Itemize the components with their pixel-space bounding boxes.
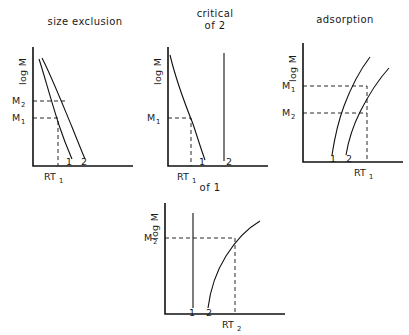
figure-canvas: size exclusion log M 1 2 M 2 M 1 RT bbox=[0, 0, 409, 335]
guide-m2-rt2-of-1 bbox=[165, 238, 235, 314]
panel-of-1: of 1 log M 1 2 M 2 RT 2 bbox=[130, 180, 300, 335]
curve-label-1-critical-of-2: 1 bbox=[199, 156, 205, 167]
curve-2-of-1 bbox=[208, 221, 260, 308]
ytick-m2-sub-of-1: 2 bbox=[153, 238, 157, 246]
ytick-m1-adsorption: M bbox=[282, 80, 290, 91]
guide-m1-rt1-adsorption bbox=[303, 86, 367, 162]
curve-label-1-of-1: 1 bbox=[189, 307, 195, 318]
axes-adsorption bbox=[303, 43, 403, 162]
ytick-m1-size-exclusion: M bbox=[12, 112, 20, 123]
ytick-m2-adsorption: M bbox=[282, 107, 290, 118]
axes-critical-of-2 bbox=[168, 47, 268, 166]
curve-label-2-of-1: 2 bbox=[206, 307, 212, 318]
xtick-rt1-adsorption: RT bbox=[354, 167, 366, 178]
ytick-m1-sub-adsorption: 1 bbox=[291, 86, 295, 94]
plot-size-exclusion: log M 1 2 M 2 M 1 RT 1 bbox=[0, 0, 140, 195]
y-axis-label-adsorption: log M bbox=[287, 55, 298, 82]
ytick-m2-sub-adsorption: 2 bbox=[291, 113, 295, 121]
panel-title-of-1: of 1 bbox=[170, 182, 250, 194]
xtick-rt1-size-exclusion: RT bbox=[44, 171, 56, 182]
curve-1-adsorption bbox=[332, 57, 370, 155]
xtick-rt2-sub-of-1: 2 bbox=[237, 325, 241, 333]
curve-label-1-adsorption: 1 bbox=[330, 153, 336, 164]
ytick-m2-sub-size-exclusion: 2 bbox=[21, 101, 25, 109]
panel-title-size-exclusion: size exclusion bbox=[30, 16, 140, 28]
curve-label-2-adsorption: 2 bbox=[346, 153, 352, 164]
xtick-rt1-sub-adsorption: 1 bbox=[369, 173, 373, 181]
panel-critical-of-2: critical of 2 log M 1 2 M 1 RT 1 bbox=[135, 0, 275, 195]
xtick-rt1-sub-size-exclusion: 1 bbox=[59, 177, 63, 185]
curve-label-2-size-exclusion: 2 bbox=[81, 156, 87, 167]
guide-m1-rt1-size-exclusion bbox=[33, 118, 58, 166]
plot-of-1: log M 1 2 M 2 RT 2 bbox=[130, 180, 300, 335]
ytick-m1-sub-critical-of-2: 1 bbox=[156, 118, 160, 126]
curve-label-1-size-exclusion: 1 bbox=[66, 156, 72, 167]
ytick-m1-sub-size-exclusion: 1 bbox=[21, 118, 25, 126]
ytick-m2-of-1: M bbox=[144, 232, 152, 243]
curve-label-2-critical-of-2: 2 bbox=[226, 156, 232, 167]
y-axis-label-critical-of-2: log M bbox=[152, 58, 163, 85]
y-axis-label-size-exclusion: log M bbox=[17, 58, 28, 85]
panel-title-adsorption: adsorption bbox=[290, 14, 400, 26]
curve-2-size-exclusion bbox=[42, 58, 85, 159]
plot-adsorption: log M 1 2 M 1 M 2 RT 1 bbox=[270, 0, 409, 195]
ytick-m1-critical-of-2: M bbox=[147, 112, 155, 123]
curve-2-adsorption bbox=[346, 68, 389, 155]
ytick-m2-size-exclusion: M bbox=[12, 95, 20, 106]
curve-1-critical-of-2 bbox=[170, 55, 205, 160]
curve-1-size-exclusion bbox=[39, 59, 72, 159]
guide-m1-rt1-critical-of-2 bbox=[168, 118, 191, 166]
panel-adsorption: adsorption log M 1 2 M 1 M 2 RT 1 bbox=[270, 0, 409, 195]
panel-title-critical-of-2: critical of 2 bbox=[165, 8, 265, 32]
xtick-rt2-of-1: RT bbox=[222, 319, 234, 330]
panel-size-exclusion: size exclusion log M 1 2 M 2 M 1 RT bbox=[0, 0, 140, 195]
axes-size-exclusion bbox=[33, 47, 133, 166]
